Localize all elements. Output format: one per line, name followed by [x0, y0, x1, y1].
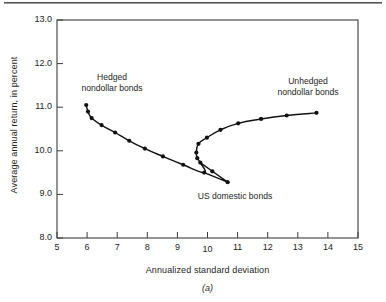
data-point: [218, 128, 222, 132]
x-tick-label: 6: [75, 242, 99, 252]
x-tick-label: 12: [256, 242, 280, 252]
annotation-line: Hedged: [58, 72, 166, 83]
data-point: [285, 113, 289, 117]
x-tick-label: 10: [196, 244, 220, 254]
annotation-line: Unhedged: [252, 76, 364, 87]
x-tick-label: 9: [165, 242, 189, 252]
y-tick-label: 13.0: [18, 14, 52, 24]
data-point: [86, 109, 90, 113]
y-tick-label: 12.0: [18, 58, 52, 68]
data-point: [205, 136, 209, 140]
y-tick-label: 10.0: [18, 145, 52, 155]
annotation-line: nondollar bonds: [252, 87, 364, 98]
data-point: [198, 160, 202, 164]
panel-identifier: (a): [57, 283, 358, 293]
x-tick-label: 13: [286, 242, 310, 252]
x-tick-label: 11: [226, 242, 250, 252]
data-point: [236, 121, 240, 125]
x-tick-label: 14: [316, 242, 340, 252]
x-tick-label: 15: [346, 242, 370, 252]
y-tick-label: 9.0: [18, 188, 52, 198]
x-tick-label: 5: [45, 242, 69, 252]
data-point: [90, 116, 94, 120]
data-point: [113, 130, 117, 134]
data-point: [259, 117, 263, 121]
data-point: [195, 156, 199, 160]
data-point: [99, 123, 103, 127]
figure-container: 13.0 12.0 11.0 10.0 9.0 8.0 5 6 7 8 9 10…: [0, 0, 386, 302]
data-point: [84, 103, 88, 107]
data-point: [196, 142, 200, 146]
data-point: [181, 163, 185, 167]
annotation-us-domestic-bonds: US domestic bonds: [170, 191, 300, 202]
chart-plot-area: [0, 0, 386, 302]
x-tick-label: 7: [105, 242, 129, 252]
annotation-line: nondollar bonds: [58, 83, 166, 94]
plot-frame: [57, 20, 358, 238]
data-point: [210, 169, 214, 173]
y-tick-label: 8.0: [18, 232, 52, 242]
data-point: [202, 171, 206, 175]
x-tick-label: 8: [135, 242, 159, 252]
y-tick-label: 11.0: [18, 101, 52, 111]
annotation-unhedged-nondollar-bonds: Unhedged nondollar bonds: [252, 76, 364, 97]
data-point: [314, 111, 318, 115]
data-point: [143, 147, 147, 151]
data-point: [161, 154, 165, 158]
data-point: [226, 180, 230, 184]
y-axis-title: Average annual return, in percent: [9, 25, 19, 225]
data-point: [194, 150, 198, 154]
data-point: [127, 139, 131, 143]
x-axis-title: Annualized standard deviation: [57, 265, 358, 275]
annotation-hedged-nondollar-bonds: Hedged nondollar bonds: [58, 72, 166, 93]
